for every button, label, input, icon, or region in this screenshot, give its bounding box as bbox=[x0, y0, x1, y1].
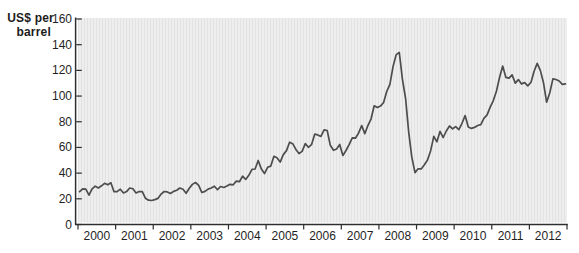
x-tick-label: 2009 bbox=[422, 229, 449, 243]
y-axis-title-line2: barrel bbox=[2, 25, 54, 39]
x-tick-label: 2005 bbox=[272, 229, 299, 243]
y-tick-label: 160 bbox=[52, 12, 72, 26]
x-tick-label: 2001 bbox=[121, 229, 148, 243]
y-tick-label: 0 bbox=[65, 218, 72, 232]
y-axis-title-line1: US$ per bbox=[2, 11, 54, 25]
plot-background bbox=[78, 18, 567, 223]
x-tick-label: 2004 bbox=[234, 229, 261, 243]
x-tick-label: 2000 bbox=[83, 229, 110, 243]
x-tick-label: 2006 bbox=[309, 229, 336, 243]
x-tick-label: 2007 bbox=[347, 229, 374, 243]
y-tick-label: 120 bbox=[52, 63, 72, 77]
y-tick-label: 60 bbox=[59, 140, 73, 154]
y-tick-label: 20 bbox=[59, 192, 73, 206]
oil-price-chart-figure: US$ per barrel 0204060801001201401602000… bbox=[0, 0, 579, 253]
line-chart-canvas: 0204060801001201401602000200120022003200… bbox=[0, 0, 579, 253]
x-tick-label: 2010 bbox=[460, 229, 487, 243]
y-tick-label: 100 bbox=[52, 89, 72, 103]
x-tick-label: 2012 bbox=[535, 229, 562, 243]
y-axis-title: US$ per barrel bbox=[2, 11, 54, 39]
y-axis: 020406080100120140160 bbox=[52, 12, 82, 232]
y-tick-label: 80 bbox=[59, 115, 73, 129]
y-tick-label: 40 bbox=[59, 166, 73, 180]
x-tick-label: 2008 bbox=[384, 229, 411, 243]
y-tick-label: 140 bbox=[52, 38, 72, 52]
x-tick-label: 2003 bbox=[196, 229, 223, 243]
x-axis: 2000200120022003200420052006200720082009… bbox=[78, 225, 567, 244]
x-tick-label: 2011 bbox=[498, 229, 524, 243]
x-tick-label: 2002 bbox=[159, 229, 186, 243]
